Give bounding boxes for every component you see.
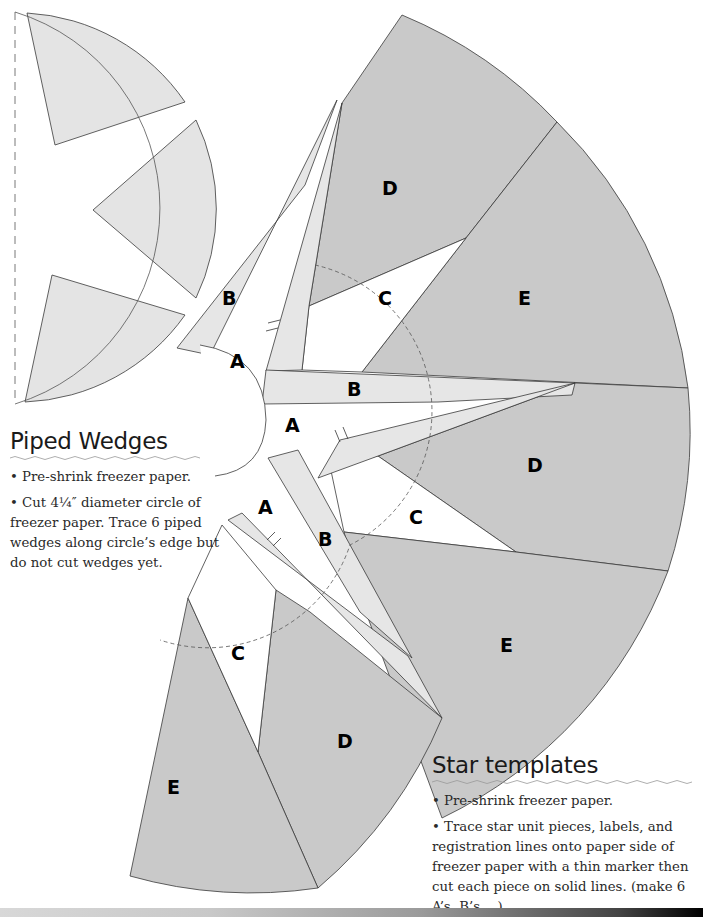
svg-text:E: E (518, 287, 531, 309)
page-footer-gradient-bar (0, 908, 703, 917)
svg-text:B: B (318, 528, 332, 550)
svg-text:B: B (347, 378, 361, 400)
piped-wedge-middle (93, 120, 216, 298)
svg-text:E: E (500, 634, 513, 656)
star-bullet-2: • Trace star unit pieces, labels, and re… (432, 817, 702, 917)
svg-text:D: D (382, 177, 398, 199)
piped-wedge-top (27, 13, 185, 145)
svg-text:A: A (258, 496, 273, 518)
star-templates-title: Star templates (432, 752, 702, 778)
svg-text:D: D (337, 730, 353, 752)
wavy-divider (432, 779, 697, 785)
piped-wedges-instructions: Piped Wedges • Pre-shrink freezer paper.… (10, 428, 235, 573)
svg-text:C: C (231, 642, 245, 664)
piped-bullet-2: • Cut 4¼″ diameter circle of freezer pap… (10, 493, 235, 573)
piped-wedge-bottom (25, 275, 185, 402)
svg-text:C: C (409, 506, 423, 528)
svg-text:C: C (378, 287, 392, 309)
piped-wedges-title: Piped Wedges (10, 428, 235, 454)
star-bullet-1: • Pre-shrink freezer paper. (432, 791, 702, 811)
svg-text:A: A (230, 350, 245, 372)
wavy-divider (10, 455, 200, 461)
svg-text:D: D (527, 454, 543, 476)
star-templates-instructions: Star templates • Pre-shrink freezer pape… (432, 752, 702, 917)
svg-text:B: B (222, 287, 236, 309)
svg-text:A: A (285, 414, 300, 436)
piped-bullet-1: • Pre-shrink freezer paper. (10, 467, 235, 487)
svg-text:E: E (167, 776, 180, 798)
